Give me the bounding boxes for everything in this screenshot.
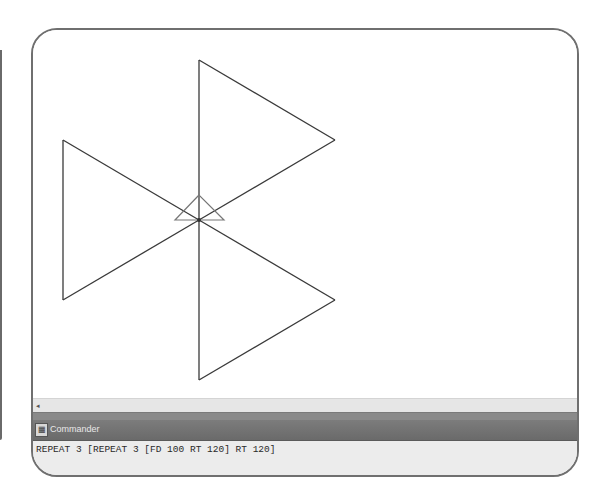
commander-window-icon: ▦ (35, 423, 48, 437)
horizontal-scrollbar[interactable]: ◂ (33, 398, 577, 412)
commander-title: Commander (50, 424, 100, 434)
scroll-left-arrow-icon[interactable]: ◂ (36, 401, 40, 410)
turtle-path-segment (199, 140, 335, 220)
turtle-path-segment (63, 220, 199, 300)
previous-slide-edge (0, 50, 2, 440)
turtle-path-segment (199, 300, 335, 380)
command-text: REPEAT 3 [REPEAT 3 [FD 100 RT 120] RT 12… (36, 444, 275, 455)
logo-window: ◂ ▦ Commander REPEAT 3 [REPEAT 3 [FD 100… (31, 28, 579, 477)
turtle-path-segment (199, 60, 335, 140)
turtle-path-segment (199, 220, 335, 300)
turtle-path-segment (63, 140, 199, 220)
command-input[interactable]: REPEAT 3 [REPEAT 3 [FD 100 RT 120] RT 12… (33, 441, 577, 475)
turtle-graphics-canvas[interactable] (33, 30, 577, 398)
drawing-surface (33, 30, 577, 398)
turtle-center-dot (197, 218, 201, 222)
commander-title-bar: ▦ Commander (33, 420, 577, 441)
